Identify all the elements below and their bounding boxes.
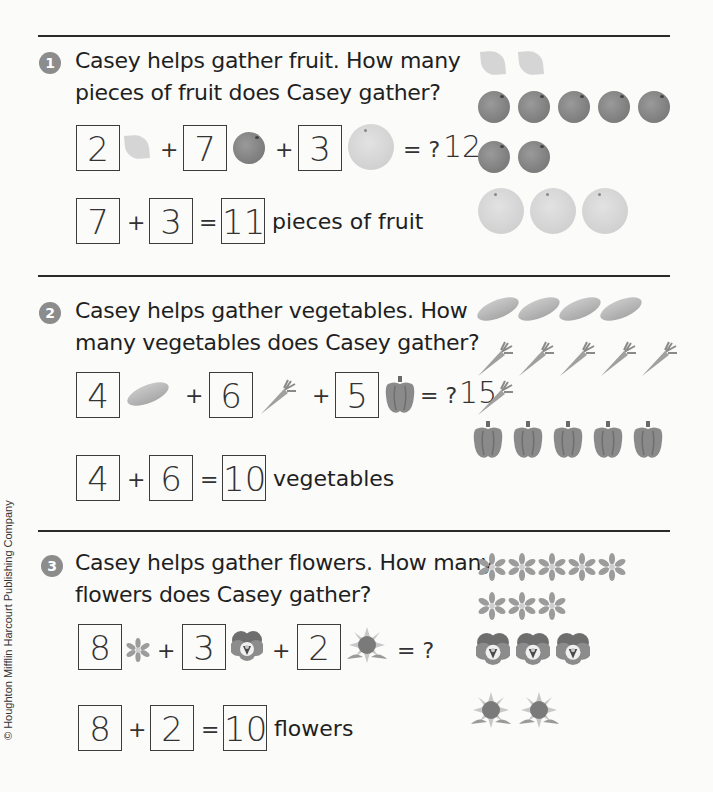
daisy-icon [598, 553, 626, 581]
answer-addend-b[interactable]: 3 [149, 198, 193, 244]
plus-sign: + [157, 638, 175, 663]
sunflower-icon [518, 690, 560, 730]
answer-addend-b[interactable]: 6 [149, 455, 193, 501]
plum-icon [638, 91, 670, 123]
carrot-icon [557, 339, 597, 379]
pansy-icon [556, 632, 590, 666]
daisy-icon [568, 553, 596, 581]
question-line-2: pieces of fruit does Casey gather? [75, 80, 441, 105]
answer-unit: pieces of fruit [272, 209, 423, 234]
sunflower-icon [347, 625, 387, 665]
question-line-1: Casey helps gather vegetables. How [75, 298, 467, 323]
squash-icon [474, 292, 522, 325]
plum-icon [518, 91, 550, 123]
carrot-icon [475, 339, 515, 379]
answer-addend-a[interactable]: 7 [76, 198, 120, 244]
plus-sign: + [185, 383, 203, 408]
handwritten-answer: 12 [443, 129, 481, 164]
pepper-icon [513, 421, 543, 459]
addend-box-peppers[interactable]: 5 [335, 372, 379, 418]
problem-number-badge: 3 [41, 555, 63, 577]
pepper-icon [633, 421, 663, 459]
plum-icon [558, 91, 590, 123]
plus-sign: + [127, 210, 145, 235]
section-divider [38, 35, 670, 37]
lemon-icon [518, 50, 544, 76]
daisy-icon [508, 553, 536, 581]
equals-sign: = [200, 467, 218, 492]
equals-question: = ? [420, 383, 457, 408]
pepper-icon [385, 376, 415, 414]
answer-unit: flowers [274, 716, 353, 741]
daisy-icon [478, 592, 506, 620]
carrot-icon [598, 339, 638, 379]
plum-icon [478, 141, 510, 173]
addend-box-plums[interactable]: 7 [183, 125, 227, 171]
sunflower-icon [470, 690, 512, 730]
section-divider [38, 275, 670, 277]
grapefruit-icon [530, 188, 576, 234]
answer-addend-a[interactable]: 8 [78, 705, 122, 751]
answer-addend-b[interactable]: 2 [150, 705, 194, 751]
squash-icon [124, 377, 172, 410]
equals-sign: = [201, 717, 219, 742]
plus-sign: + [128, 717, 146, 742]
question-line-2: many vegetables does Casey gather? [75, 330, 479, 355]
addend-box-pansies[interactable]: 3 [182, 624, 226, 670]
plus-sign: + [127, 467, 145, 492]
addend-box-grapefruits[interactable]: 3 [298, 125, 342, 171]
addend-box-squash[interactable]: 4 [76, 372, 120, 418]
grapefruit-icon [582, 188, 628, 234]
equals-question: = ? [403, 137, 440, 162]
addend-box-carrots[interactable]: 6 [209, 372, 253, 418]
carrot-icon [516, 339, 556, 379]
pepper-icon [553, 421, 583, 459]
question-line-1: Casey helps gather flowers. How many [75, 550, 494, 575]
question-line-2: flowers does Casey gather? [75, 582, 371, 607]
carrot-icon [639, 339, 679, 379]
grapefruit-icon [478, 188, 524, 234]
daisy-icon [538, 592, 566, 620]
question-line-1: Casey helps gather fruit. How many [75, 48, 461, 73]
problem-number-badge: 1 [39, 52, 61, 74]
plum-icon [518, 141, 550, 173]
carrot-icon [475, 378, 515, 418]
pansy-icon [231, 630, 263, 662]
problem-number-badge: 2 [39, 302, 61, 324]
answer-sum-box[interactable]: 10 [223, 705, 267, 751]
section-divider [38, 530, 670, 532]
squash-icon [515, 292, 563, 325]
plus-sign: + [272, 638, 290, 663]
plum-icon [233, 132, 265, 164]
daisy-icon [126, 638, 150, 662]
plus-sign: + [312, 383, 330, 408]
carrot-icon [258, 377, 298, 417]
squash-icon [597, 292, 645, 325]
lemon-icon [124, 134, 150, 160]
addend-box-lemons[interactable]: 2 [76, 125, 120, 171]
plus-sign: + [160, 137, 178, 162]
addend-box-sunflowers[interactable]: 2 [297, 624, 341, 670]
equals-question: = ? [397, 638, 434, 663]
answer-sum-box[interactable]: 10 [222, 455, 266, 501]
plum-icon [598, 91, 630, 123]
pansy-icon [476, 632, 510, 666]
daisy-icon [508, 592, 536, 620]
pansy-icon [516, 632, 550, 666]
pepper-icon [593, 421, 623, 459]
copyright-notice: © Houghton Mifflin Harcourt Publishing C… [2, 500, 14, 740]
pepper-icon [473, 421, 503, 459]
plum-icon [478, 91, 510, 123]
squash-icon [556, 292, 604, 325]
plus-sign: + [275, 137, 293, 162]
addend-box-daisies[interactable]: 8 [78, 624, 122, 670]
lemon-icon [480, 50, 506, 76]
answer-addend-a[interactable]: 4 [76, 455, 120, 501]
daisy-icon [538, 553, 566, 581]
equals-sign: = [199, 210, 217, 235]
answer-unit: vegetables [273, 466, 394, 491]
grapefruit-icon [348, 124, 394, 170]
answer-sum-box[interactable]: 11 [221, 198, 265, 244]
daisy-icon [478, 553, 506, 581]
